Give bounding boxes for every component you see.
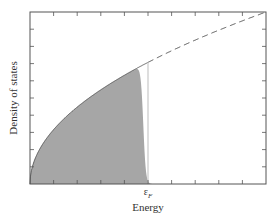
fermi-subscript: F <box>148 192 152 200</box>
occupied-states-area <box>30 69 166 184</box>
chart-canvas <box>0 0 277 224</box>
dos-curve-dashed <box>148 12 266 62</box>
y-axis-label: Density of states <box>7 61 19 134</box>
fermi-energy-tick-label: εF <box>144 186 152 200</box>
x-axis-label: Energy <box>132 201 164 213</box>
